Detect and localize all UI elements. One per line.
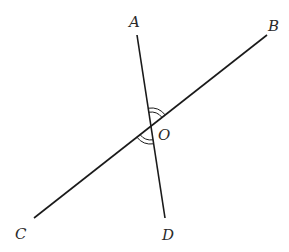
geometry-diagram: A B C D O <box>0 0 289 252</box>
line-cb <box>34 35 267 218</box>
label-b: B <box>267 17 279 35</box>
label-d: D <box>161 226 174 244</box>
label-a: A <box>127 13 140 31</box>
label-c: C <box>15 225 27 243</box>
label-o: O <box>158 126 170 144</box>
